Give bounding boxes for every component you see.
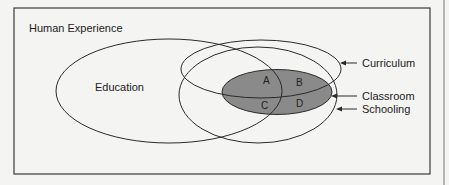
curriculum-label: Curriculum bbox=[362, 57, 415, 69]
venn-diagram: Human Experience Education A B C D Curri… bbox=[0, 0, 449, 185]
classroom-label: Classroom bbox=[362, 90, 415, 102]
classroom-arrow bbox=[331, 94, 357, 99]
region-d-label: D bbox=[296, 98, 303, 109]
schooling-label: Schooling bbox=[362, 103, 410, 115]
region-c-label: C bbox=[261, 100, 268, 111]
curriculum-arrow bbox=[340, 61, 357, 66]
schooling-arrow bbox=[336, 107, 357, 112]
region-b-label: B bbox=[296, 77, 303, 88]
frame-title: Human Experience bbox=[29, 22, 123, 34]
education-label: Education bbox=[95, 81, 144, 93]
region-a-label: A bbox=[263, 75, 270, 86]
